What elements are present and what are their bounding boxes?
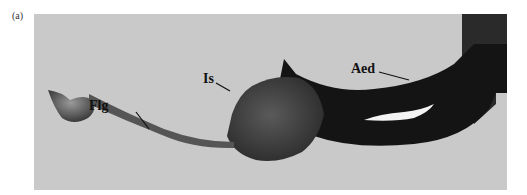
label-is: Is bbox=[203, 71, 214, 87]
flagellum bbox=[89, 94, 234, 148]
label-flg: Flg bbox=[89, 98, 108, 114]
flagellum-bulb bbox=[48, 90, 94, 122]
label-aed: Aed bbox=[351, 61, 375, 77]
panel-label: (a) bbox=[12, 10, 23, 21]
internal-sac bbox=[227, 77, 324, 161]
